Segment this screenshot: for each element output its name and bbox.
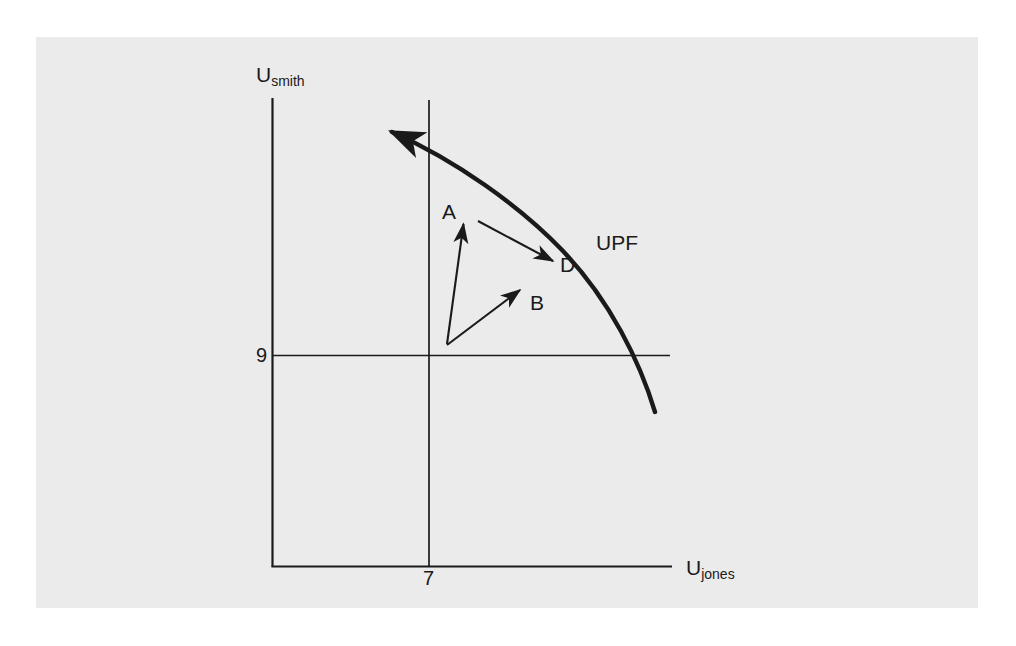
x-axis-label-subscript: jones [701,566,734,582]
point-label-d: D [560,254,575,275]
y-axis-label-base: U [256,63,271,86]
y-tick-label-9: 9 [256,345,267,365]
figure-root: Usmith Ujones 9 7 A D B UPF [0,0,1016,646]
point-label-b: B [530,292,544,313]
arrow-to-b [447,290,520,345]
y-axis-label: Usmith [256,64,305,85]
x-tick-label-7: 7 [423,568,434,588]
plot-canvas [0,0,1016,646]
x-axis-label-base: U [686,556,701,579]
upf-curve-label: UPF [596,232,638,253]
upf-curve [392,132,655,412]
y-axis-label-subscript: smith [271,73,304,89]
arrow-to-a [447,224,464,344]
point-label-a: A [442,201,456,222]
arrow-a-to-d [478,221,553,261]
x-axis-label: Ujones [686,557,735,578]
